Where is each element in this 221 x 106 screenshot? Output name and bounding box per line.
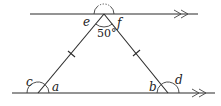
angle-label-c: c — [26, 75, 33, 89]
angle-f-arc — [110, 6, 114, 14]
angle-label-b: b — [149, 80, 157, 94]
angle-label-f: f — [116, 16, 124, 30]
angle-a-arc — [45, 85, 49, 93]
angle-e-arc — [94, 6, 98, 14]
angle-b-arc — [157, 85, 161, 93]
angle-label-e: e — [83, 15, 90, 29]
angle-label-a: a — [52, 80, 59, 94]
apex-angle-label: 50° — [97, 27, 117, 40]
geometry-diagram: e f 50° c a b d — [0, 0, 221, 106]
apex-top-arc — [98, 4, 111, 6]
angle-label-d: d — [175, 73, 183, 87]
